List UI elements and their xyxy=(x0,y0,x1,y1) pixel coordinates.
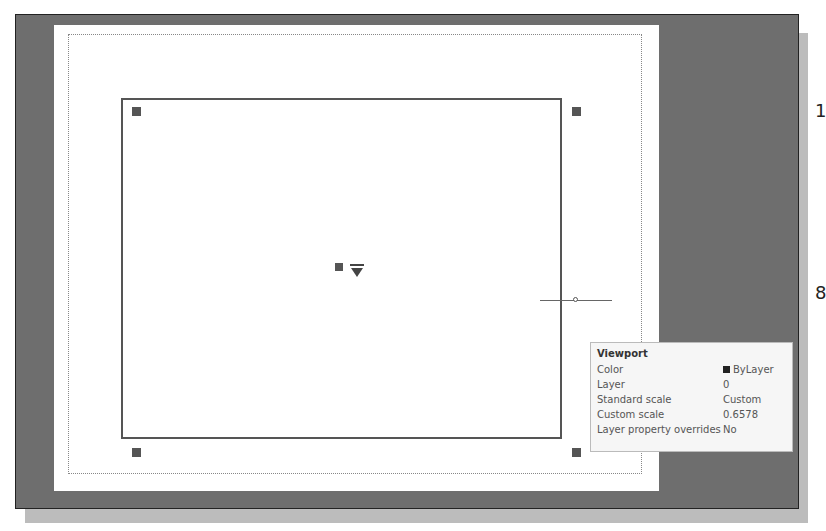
tooltip-row-color: Color ByLayer xyxy=(597,362,786,377)
grip-top-right[interactable] xyxy=(572,107,581,116)
tooltip-row-layer-overrides: Layer property overrides No xyxy=(597,422,786,437)
tooltip-row-standard-scale: Standard scale Custom xyxy=(597,392,786,407)
color-swatch-icon xyxy=(723,366,730,373)
tooltip-row-layer: Layer 0 xyxy=(597,377,786,392)
viewport-center-grip[interactable] xyxy=(335,263,343,271)
viewport-properties-tooltip: Viewport Color ByLayer Layer 0 Standard … xyxy=(590,342,793,452)
cropped-margin-text-bottom: 8 xyxy=(815,282,826,303)
cursor-pickbox xyxy=(573,297,578,302)
cropped-margin-text-top: 1 xyxy=(815,100,826,121)
tooltip-row-custom-scale: Custom scale 0.6578 xyxy=(597,407,786,422)
grip-bottom-left[interactable] xyxy=(132,448,141,457)
grip-bottom-right[interactable] xyxy=(572,448,581,457)
scale-dropdown-triangle-icon[interactable] xyxy=(350,263,364,282)
grip-top-left[interactable] xyxy=(132,107,141,116)
tooltip-title: Viewport xyxy=(597,348,786,359)
